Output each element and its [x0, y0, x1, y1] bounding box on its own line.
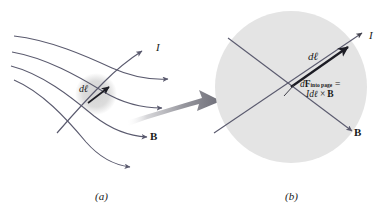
element-label-b: dℓ: [308, 51, 318, 62]
field-label-a: B: [150, 131, 157, 142]
element-highlight-a: [75, 73, 117, 115]
panel-a-group: [11, 36, 168, 167]
current-label-b: I: [369, 30, 373, 41]
current-label-a: I: [156, 42, 160, 53]
panel-a-caption: (a): [95, 191, 108, 202]
figure-canvas: [0, 0, 387, 217]
force-equation-line2: Idℓ×B: [306, 90, 334, 100]
field-label-b: B: [354, 127, 361, 138]
panel-b-caption: (b): [285, 191, 298, 202]
magnify-arrow: [126, 90, 221, 126]
panel-b-group: [214, 11, 367, 163]
element-label-a: dℓ: [79, 84, 88, 94]
field-line: [14, 36, 168, 79]
